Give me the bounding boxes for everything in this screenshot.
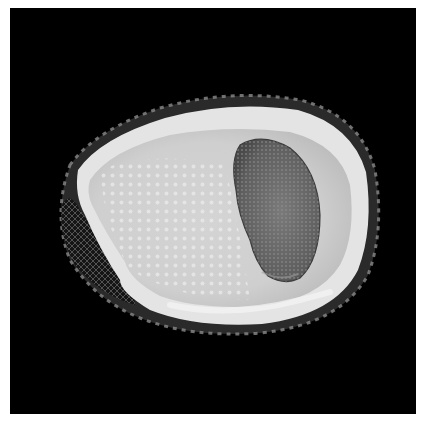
shell-photo (10, 8, 416, 414)
shell (61, 96, 379, 335)
photo-frame (10, 8, 416, 414)
